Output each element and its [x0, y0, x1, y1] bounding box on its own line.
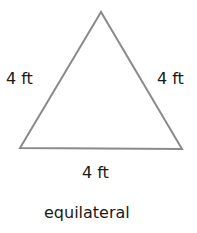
left-side-length-label: 4 ft — [6, 71, 33, 87]
triangle-diagram — [0, 0, 197, 233]
bottom-side-length-label: 4 ft — [82, 165, 109, 181]
right-side-length-label: 4 ft — [157, 71, 184, 87]
triangle-type-caption: equilateral — [44, 205, 130, 221]
